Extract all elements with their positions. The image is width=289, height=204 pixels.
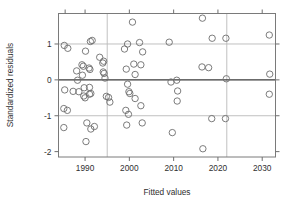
data-point [199,15,205,21]
data-point [209,35,215,41]
data-point [79,62,85,68]
y-tick-label: 1 [47,39,52,49]
plot-frame [59,14,276,158]
data-point [138,62,144,68]
data-point [266,32,272,38]
data-point [73,68,79,74]
data-point [89,37,95,43]
data-point [124,81,130,87]
data-point [174,98,180,104]
plot-frame-group [59,14,276,158]
gridlines-group [59,14,276,158]
data-point [61,87,67,93]
data-point [267,71,273,77]
x-tick-label: 2000 [120,163,139,173]
tickmarks-group [55,10,280,162]
data-point [132,71,138,77]
data-point [136,39,142,45]
data-point [129,19,135,25]
data-point [199,64,205,70]
y-tick-label: -2 [44,147,52,157]
y-tick-label: 0 [47,75,52,85]
y-tick-label: -1 [44,111,52,121]
data-point [209,115,215,121]
data-point [223,35,229,41]
data-point [139,49,145,55]
x-tick-label: 1990 [76,163,95,173]
data-point [123,66,129,72]
data-point [174,88,180,94]
y-axis-title: Standardized residuals [5,43,15,127]
data-point [84,120,90,126]
data-point [131,61,137,67]
x-tick-label: 2020 [209,163,228,173]
x-axis-title: Fitted values [143,187,190,197]
data-point [266,91,272,97]
residual-scatter-figure: 19902000201020202030 10-1-2 Fitted value… [0,0,289,204]
data-point [82,95,88,101]
data-point [139,120,145,126]
data-point [79,72,85,78]
data-point [200,146,206,152]
data-point [124,122,130,128]
data-point [83,138,89,144]
plot-canvas: 19902000201020202030 10-1-2 Fitted value… [0,0,289,204]
data-point [222,115,228,121]
x-tick-labels-group: 19902000201020202030 [76,163,272,173]
data-point [169,129,175,135]
data-point [61,124,67,130]
data-point [132,95,138,101]
data-points-group [61,15,273,152]
data-point [82,48,88,54]
x-tick-label: 2030 [253,163,272,173]
data-point [138,103,144,109]
data-point [205,64,211,70]
x-tick-label: 2010 [164,163,183,173]
y-tick-labels-group: 10-1-2 [44,39,52,157]
